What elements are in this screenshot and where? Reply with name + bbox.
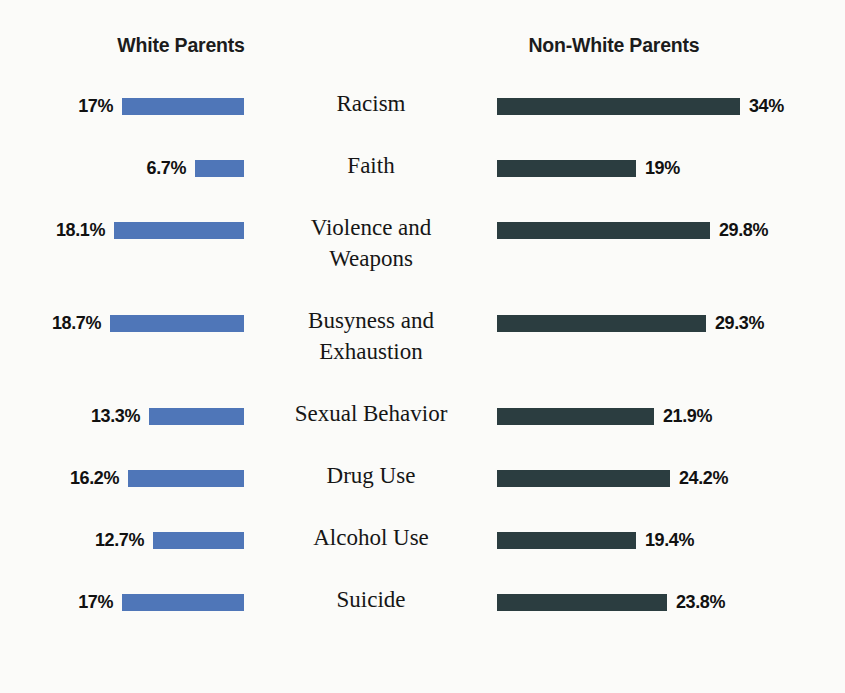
table-row: 18.1%Violence andWeapons29.8% [0,212,845,305]
non-white-parents-value-label: 29.3% [715,313,764,334]
non-white-parents-value-label: 34% [749,96,784,117]
white-parents-bar [122,98,244,115]
non-white-parents-bar [497,408,654,425]
non-white-parents-datapoint: 34% [497,88,784,124]
white-parents-bar [153,532,244,549]
category-label: Suicide [252,584,490,615]
non-white-parents-datapoint: 29.8% [497,212,768,248]
table-row: 12.7%Alcohol Use19.4% [0,522,845,584]
non-white-parents-bar [497,315,706,332]
white-parents-bar [195,160,244,177]
category-label: Racism [252,88,490,119]
non-white-parents-datapoint: 29.3% [497,305,764,341]
non-white-parents-value-label: 29.8% [719,220,768,241]
white-parents-bar [122,594,244,611]
non-white-parents-value-label: 19.4% [645,530,694,551]
non-white-parents-bar [497,160,636,177]
white-parents-value-label: 18.7% [52,313,101,334]
category-label-line: Exhaustion [252,336,490,367]
white-parents-value-label: 18.1% [56,220,105,241]
non-white-parents-bar [497,470,670,487]
category-label-line: Alcohol Use [252,522,490,553]
white-parents-datapoint: 13.3% [0,398,244,434]
category-label-line: Faith [252,150,490,181]
category-label: Drug Use [252,460,490,491]
category-label-line: Sexual Behavior [252,398,490,429]
non-white-parents-bar [497,98,740,115]
category-label-line: Suicide [252,584,490,615]
category-label-line: Busyness and [252,305,490,336]
table-row: 17%Suicide23.8% [0,584,845,646]
category-label-line: Drug Use [252,460,490,491]
category-label: Faith [252,150,490,181]
chart-legend: White Parents Non-White Parents [0,34,845,64]
non-white-parents-bar [497,532,636,549]
category-label: Busyness andExhaustion [252,305,490,367]
non-white-parents-value-label: 24.2% [679,468,728,489]
white-parents-bar [149,408,244,425]
non-white-parents-value-label: 21.9% [663,406,712,427]
white-parents-datapoint: 18.7% [0,305,244,341]
non-white-parents-bar [497,594,667,611]
white-parents-value-label: 16.2% [70,468,119,489]
white-parents-value-label: 6.7% [147,158,186,179]
category-label: Sexual Behavior [252,398,490,429]
white-parents-datapoint: 16.2% [0,460,244,496]
white-parents-value-label: 12.7% [95,530,144,551]
table-row: 13.3%Sexual Behavior21.9% [0,398,845,460]
non-white-parents-value-label: 23.8% [676,592,725,613]
table-row: 6.7%Faith19% [0,150,845,212]
white-parents-datapoint: 18.1% [0,212,244,248]
non-white-parents-datapoint: 19% [497,150,680,186]
white-parents-value-label: 17% [78,96,113,117]
column-header-white-parents: White Parents [117,34,244,57]
non-white-parents-bar [497,222,710,239]
white-parents-bar [110,315,244,332]
table-row: 16.2%Drug Use24.2% [0,460,845,522]
column-header-non-white-parents: Non-White Parents [528,34,699,57]
white-parents-value-label: 17% [78,592,113,613]
white-parents-value-label: 13.3% [91,406,140,427]
non-white-parents-datapoint: 21.9% [497,398,712,434]
non-white-parents-datapoint: 23.8% [497,584,725,620]
white-parents-datapoint: 6.7% [0,150,244,186]
table-row: 17%Racism34% [0,88,845,150]
paired-bar-chart: White Parents Non-White Parents 17%Racis… [0,0,845,693]
category-label-line: Racism [252,88,490,119]
non-white-parents-datapoint: 24.2% [497,460,728,496]
white-parents-datapoint: 17% [0,88,244,124]
non-white-parents-value-label: 19% [645,158,680,179]
category-label: Alcohol Use [252,522,490,553]
white-parents-bar [114,222,244,239]
white-parents-datapoint: 17% [0,584,244,620]
white-parents-bar [128,470,244,487]
non-white-parents-datapoint: 19.4% [497,522,694,558]
white-parents-datapoint: 12.7% [0,522,244,558]
table-row: 18.7%Busyness andExhaustion29.3% [0,305,845,398]
category-label-line: Weapons [252,243,490,274]
chart-rows: 17%Racism34%6.7%Faith19%18.1%Violence an… [0,88,845,646]
category-label: Violence andWeapons [252,212,490,274]
category-label-line: Violence and [252,212,490,243]
